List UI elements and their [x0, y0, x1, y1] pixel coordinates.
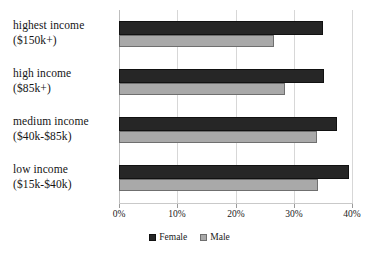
- chart-legend: Female Male: [0, 232, 379, 242]
- x-tick-10: [177, 204, 178, 208]
- x-tick-label-0: 0%: [113, 209, 126, 219]
- gridline-40: [352, 10, 353, 204]
- bar-male-high-income: [119, 83, 285, 95]
- category-label-line2: ($85k+): [13, 81, 117, 96]
- category-label-low-income: low income ($15k-$40k): [13, 162, 117, 191]
- bar-female-highest-income: [119, 21, 323, 35]
- bar-male-low-income: [119, 179, 318, 191]
- legend-label-female: Female: [159, 232, 187, 242]
- x-tick-label-40: 40%: [343, 209, 360, 219]
- x-tick-40: [352, 204, 353, 208]
- category-label-line1: medium income: [13, 115, 89, 127]
- legend-label-male: Male: [210, 232, 230, 242]
- income-gender-bar-chart: highest income ($150k+) high income ($85…: [0, 0, 379, 259]
- legend-swatch-male-icon: [200, 234, 207, 241]
- category-label-high-income: high income ($85k+): [13, 66, 117, 95]
- category-label-medium-income: medium income ($40k-$85k): [13, 114, 117, 143]
- category-label-line1: highest income: [13, 19, 84, 31]
- x-tick-20: [236, 204, 237, 208]
- category-label-line1: low income: [13, 163, 68, 175]
- x-tick-label-30: 30%: [285, 209, 302, 219]
- bar-female-high-income: [119, 69, 324, 83]
- x-tick-30: [294, 204, 295, 208]
- plot-area: [119, 10, 353, 204]
- legend-item-female: Female: [149, 232, 187, 242]
- legend-swatch-female-icon: [149, 234, 156, 241]
- category-label-line2: ($15k-$40k): [13, 177, 117, 192]
- category-label-highest-income: highest income ($150k+): [13, 18, 117, 47]
- category-label-line1: high income: [13, 67, 71, 79]
- bar-female-medium-income: [119, 117, 337, 131]
- category-label-line2: ($40k-$85k): [13, 129, 117, 144]
- bar-female-low-income: [119, 165, 349, 179]
- bar-male-highest-income: [119, 35, 274, 47]
- x-tick-0: [119, 204, 120, 208]
- x-tick-label-20: 20%: [227, 209, 244, 219]
- bar-male-medium-income: [119, 131, 317, 143]
- legend-item-male: Male: [200, 232, 230, 242]
- category-label-line2: ($150k+): [13, 33, 117, 48]
- x-tick-label-10: 10%: [168, 209, 185, 219]
